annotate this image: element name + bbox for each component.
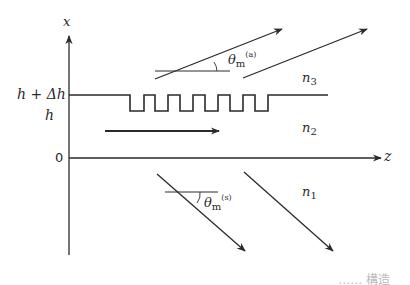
z-axis-label: z [384,148,391,164]
grating-coupler-diagram [0,0,410,285]
region-n3-label: n3 [302,70,317,87]
x-axis-label: x [63,14,70,29]
radiated-wave-substrate-arrow-2 [244,172,333,251]
caption-fragment: …… 構造 [0,270,410,285]
origin-label: 0 [55,150,63,165]
air-angle-arc [214,62,217,71]
grating-surface [69,95,328,111]
radiated-wave-substrate-arrow-1 [157,174,245,251]
substrate-angle-arc [197,192,200,203]
level-h-label: h [45,107,54,123]
theta-air-label: θm(a) [228,50,256,69]
region-n2-label: n2 [302,120,317,137]
region-n1-label: n1 [302,184,317,201]
theta-substrate-label: θm(s) [204,193,232,212]
level-h-plus-dh-label: h + Δh [17,86,66,102]
